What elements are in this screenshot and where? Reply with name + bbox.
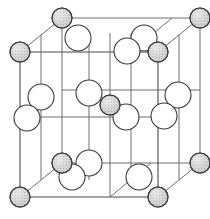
- atom-shaded-corner-back-bottom-left: [52, 153, 72, 173]
- atom-open-face-left-lower: [14, 105, 40, 131]
- atom-open-edge-top-back-mid: [65, 25, 91, 51]
- atom-shaded-body-center: [100, 95, 120, 115]
- atom-shaded-corner-back-bottom-right: [190, 153, 210, 173]
- atom-open-edge-bottom-right-front: [126, 164, 152, 190]
- crystal-unit-cell-figure: Rock-salt (NaCl-type) crystal unit cell: [0, 0, 210, 219]
- atom-open-edge-top-right-front: [114, 38, 140, 64]
- atom-shaded-corner-back-top-left: [52, 8, 72, 28]
- atom-shaded-corner-front-bottom-left: [10, 187, 30, 207]
- atom-shaded-corner-front-bottom-right: [148, 187, 168, 207]
- atom-open-face-center-left: [76, 80, 102, 106]
- atom-shaded-corner-back-top-right: [190, 8, 210, 28]
- unit-cell-diagram: [0, 0, 210, 219]
- atom-shaded-corner-front-top-right: [148, 42, 168, 62]
- atom-shaded-corner-front-top-left: [10, 42, 30, 62]
- atom-open-face-right-lower: [151, 103, 177, 129]
